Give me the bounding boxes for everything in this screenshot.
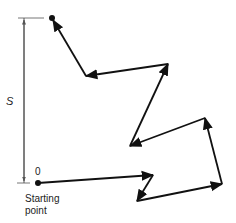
- step-4-arrow: [205, 118, 222, 184]
- walk-path: [38, 20, 222, 201]
- starting-point-label-line1: Starting: [25, 193, 59, 204]
- displacement-label: S: [6, 95, 14, 107]
- starting-point-label-line2: point: [25, 205, 47, 216]
- start-point-dot: [35, 180, 41, 186]
- step-3-arrow: [137, 184, 222, 201]
- step-8-arrow: [53, 20, 86, 76]
- step-2-arrow: [137, 175, 153, 201]
- displacement-dimension: S: [6, 18, 44, 183]
- origin-label: 0: [35, 166, 41, 177]
- step-7-arrow: [86, 64, 168, 76]
- random-walk-diagram: S 0 Starting point: [0, 0, 236, 223]
- step-1-arrow: [38, 175, 153, 183]
- end-point-dot: [49, 15, 55, 21]
